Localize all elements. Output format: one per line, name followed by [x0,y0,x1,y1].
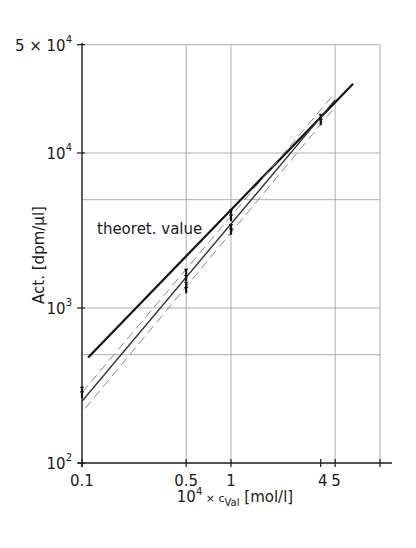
upper-confidence-line [82,93,335,393]
regression-line [82,100,335,401]
data-series [80,84,353,409]
y-tick-label: 103 [47,297,72,318]
lower-confidence-line [85,107,335,408]
y-tick-label: 102 [47,452,72,473]
y-axis-ticks: 1021031045 × 104 [15,34,85,473]
axes [78,43,392,467]
x-tick-label: 5 [331,472,341,490]
y-tick-label: 104 [47,142,72,163]
log-log-chart: 0.10.5145 1021031045 × 104 theoret. valu… [0,0,416,548]
theoretical-value-annotation: theoret. value [97,220,202,238]
y-axis-label: Act. [dpm/µl] [30,206,48,304]
x-tick-label: 4 [318,472,328,490]
y-tick-label: 5 × 104 [15,34,72,55]
x-tick-label: 0.1 [70,472,94,490]
gridlines [82,45,380,463]
x-tick-label: 1 [226,472,236,490]
